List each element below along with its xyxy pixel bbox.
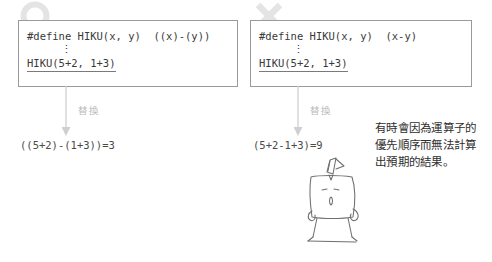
macro-call-line: HIKU(5+2, 1+3)	[259, 57, 463, 72]
figure-root: #define HIKU(x, y) ((x)-(y)) ⋮ HIKU(5+2,…	[0, 0, 492, 262]
macro-call-text: HIKU(5+2, 1+3)	[27, 57, 116, 72]
expansion-result-incorrect: (5+2-1+3)=9	[253, 139, 323, 151]
caption-text: 有時會因為運算子的優先順序而無法計算出預期的結果。	[375, 120, 487, 171]
substitution-label: 替換	[310, 103, 332, 117]
substitution-arrow-icon	[290, 86, 306, 138]
substitution-label: 替換	[78, 103, 100, 117]
substitution-arrow-icon	[58, 86, 74, 138]
macro-call-line: HIKU(5+2, 1+3)	[27, 57, 229, 72]
macro-call-text: HIKU(5+2, 1+3)	[259, 57, 348, 72]
expansion-result-correct: ((5+2)-(1+3))=3	[20, 139, 115, 151]
code-ellipsis: ⋮	[259, 43, 463, 57]
code-box-correct: #define HIKU(x, y) ((x)-(y)) ⋮ HIKU(5+2,…	[18, 20, 238, 87]
macro-define-line: #define HIKU(x, y) (x-y)	[259, 30, 463, 43]
surprised-character-illustration	[286, 155, 378, 243]
macro-define-line: #define HIKU(x, y) ((x)-(y))	[27, 30, 229, 43]
code-ellipsis: ⋮	[27, 43, 229, 57]
code-box-incorrect: #define HIKU(x, y) (x-y) ⋮ HIKU(5+2, 1+3…	[250, 20, 472, 87]
